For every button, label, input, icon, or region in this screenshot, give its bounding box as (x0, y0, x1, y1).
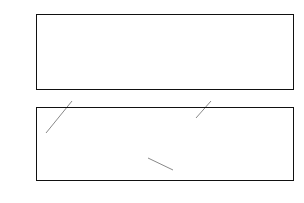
channel-output-trace-wrap (37, 108, 293, 180)
channel-output-trace (37, 108, 293, 180)
figure-canvas (0, 0, 304, 203)
channel-input-plot (36, 14, 294, 90)
channel-input-trace-wrap (37, 15, 293, 89)
channel-output-plot (36, 107, 294, 181)
channel-input-trace (37, 15, 293, 89)
